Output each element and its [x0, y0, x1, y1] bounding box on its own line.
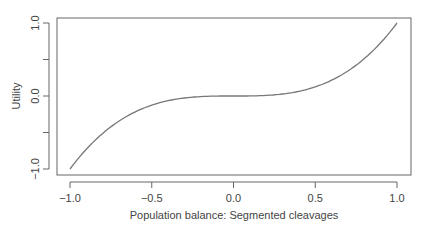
chart: −1.0−0.50.00.51.0 −1.00.01.0 Population …	[0, 0, 423, 230]
x-tick-label: 0.0	[226, 192, 241, 204]
x-axis: −1.0−0.50.00.51.0	[59, 182, 405, 204]
y-tick-label: 1.0	[29, 15, 41, 30]
y-tick-label: 0.0	[29, 88, 41, 103]
y-axis-label: Utility	[10, 82, 22, 109]
x-axis-label: Population balance: Segmented cleavages	[130, 209, 339, 221]
y-axis: −1.00.01.0	[29, 15, 49, 180]
utility-curve	[70, 23, 397, 169]
x-tick-label: 0.5	[308, 192, 323, 204]
x-tick-label: −1.0	[59, 192, 81, 204]
x-tick-label: −0.5	[141, 192, 163, 204]
x-tick-label: 1.0	[389, 192, 404, 204]
y-tick-label: −1.0	[29, 158, 41, 180]
